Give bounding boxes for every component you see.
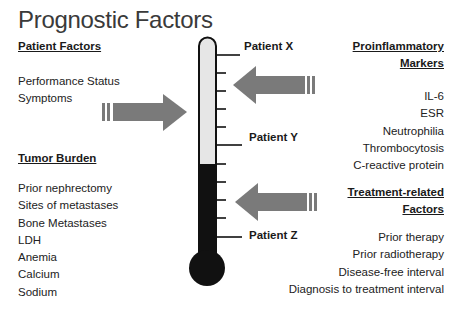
arrow-left-icon bbox=[235, 183, 317, 221]
thermometer-diagram bbox=[0, 0, 461, 309]
arrow-right-icon bbox=[102, 94, 187, 131]
patient-z-label: Patient Z bbox=[249, 229, 298, 241]
arrow-left-icon bbox=[233, 66, 315, 104]
patient-y-label: Patient Y bbox=[249, 131, 298, 143]
thermometer-icon bbox=[189, 38, 242, 287]
patient-x-label: Patient X bbox=[244, 40, 293, 52]
